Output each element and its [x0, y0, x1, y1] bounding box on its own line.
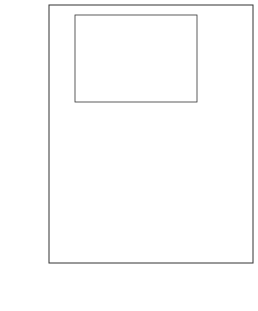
- inset-plot-frame: [75, 15, 197, 102]
- chart: [0, 0, 258, 311]
